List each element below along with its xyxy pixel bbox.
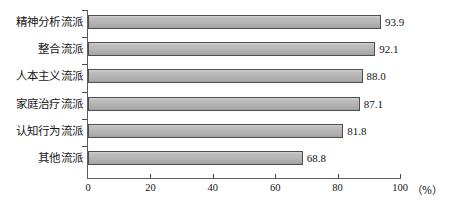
horizontal-bar-chart: 精神分析流派93.9整合流派92.1人本主义流派88.0家庭治疗流派87.1认知… bbox=[0, 0, 453, 210]
y-axis-tick bbox=[82, 64, 87, 65]
x-axis-tick-label: 0 bbox=[68, 182, 108, 193]
category-label: 认知行为流派 bbox=[0, 124, 83, 138]
bar bbox=[88, 97, 360, 111]
bar bbox=[88, 42, 375, 56]
x-axis-tick-label: 20 bbox=[130, 182, 170, 193]
bar-value-label: 87.1 bbox=[364, 97, 383, 111]
x-axis-tick-label: 40 bbox=[193, 182, 233, 193]
category-label: 整合流派 bbox=[0, 42, 83, 56]
category-label: 其他流派 bbox=[0, 151, 83, 165]
category-label: 家庭治疗流派 bbox=[0, 97, 83, 111]
bar-value-label: 93.9 bbox=[385, 15, 404, 29]
x-axis-tick-label: 60 bbox=[255, 182, 295, 193]
category-label: 人本主义流派 bbox=[0, 69, 83, 83]
y-axis-tick bbox=[82, 92, 87, 93]
bar-value-label: 88.0 bbox=[367, 69, 386, 83]
bar-value-label: 81.8 bbox=[347, 124, 366, 138]
y-axis-tick bbox=[82, 119, 87, 120]
y-axis-tick bbox=[82, 10, 87, 11]
y-axis-tick bbox=[82, 37, 87, 38]
x-axis-tick bbox=[275, 174, 276, 178]
x-axis-line bbox=[88, 178, 401, 179]
x-axis-tick bbox=[338, 174, 339, 178]
y-axis-tick bbox=[82, 146, 87, 147]
category-label: 精神分析流派 bbox=[0, 15, 83, 29]
bar bbox=[88, 69, 363, 83]
x-axis-tick-label: 80 bbox=[318, 182, 358, 193]
bar-value-label: 92.1 bbox=[379, 42, 398, 56]
bar bbox=[88, 15, 381, 29]
x-axis-tick bbox=[400, 174, 401, 178]
x-axis-unit-label: （%） bbox=[412, 182, 442, 197]
x-axis-tick bbox=[150, 174, 151, 178]
bar-value-label: 68.8 bbox=[307, 151, 326, 165]
bar bbox=[88, 124, 343, 138]
x-axis-tick bbox=[213, 174, 214, 178]
bar bbox=[88, 151, 303, 165]
